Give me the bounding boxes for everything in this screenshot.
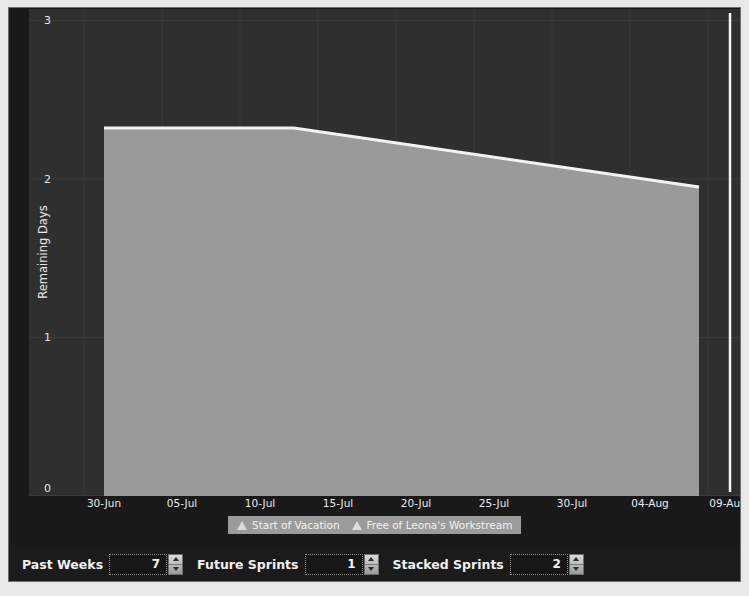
y-tick-3: 3 — [29, 15, 51, 26]
x-tick-7: 04-Aug — [615, 497, 685, 509]
x-tick-4: 20-Jul — [381, 497, 451, 509]
future-sprints-input[interactable]: 1 — [305, 554, 363, 575]
x-axis: 30-Jun 05-Jul 10-Jul 15-Jul 20-Jul 25-Ju… — [29, 497, 741, 513]
stacked-sprints-spin-buttons[interactable] — [569, 554, 584, 575]
x-tick-5: 25-Jul — [459, 497, 529, 509]
spinner-increment-button[interactable] — [365, 555, 378, 565]
y-axis-title: Remaining Days — [36, 192, 50, 312]
x-tick-3: 15-Jul — [303, 497, 373, 509]
spinner-increment-button[interactable] — [169, 555, 182, 565]
chart-legend[interactable]: Start of Vacation Free of Leona's Workst… — [228, 516, 521, 534]
x-tick-0: 30-Jun — [69, 497, 139, 509]
area-fill-remaining-days — [104, 128, 699, 496]
area-chart-svg — [29, 9, 741, 496]
past-weeks-label: Past Weeks — [22, 557, 103, 572]
chevron-up-icon — [368, 557, 374, 561]
spinner-increment-button[interactable] — [570, 555, 583, 565]
legend-entry-start-of-vacation[interactable]: Start of Vacation — [237, 519, 340, 531]
future-sprints-spin-buttons[interactable] — [364, 554, 379, 575]
control-group-past-weeks: Past Weeks 7 — [22, 554, 183, 575]
chevron-up-icon — [173, 557, 179, 561]
past-weeks-spin-buttons[interactable] — [168, 554, 183, 575]
x-tick-6: 30-Jul — [537, 497, 607, 509]
spinner-decrement-button[interactable] — [169, 565, 182, 574]
stacked-sprints-label: Stacked Sprints — [393, 557, 504, 572]
y-tick-2: 2 — [29, 174, 51, 185]
x-tick-2: 10-Jul — [225, 497, 295, 509]
spinner-decrement-button[interactable] — [570, 565, 583, 574]
legend-entry-free-of-leonas-workstream[interactable]: Free of Leona's Workstream — [352, 519, 513, 531]
y-tick-0: 0 — [29, 483, 51, 494]
past-weeks-stepper[interactable]: 7 — [109, 554, 183, 575]
future-sprints-label: Future Sprints — [197, 557, 298, 572]
triangle-up-icon — [237, 521, 247, 530]
chevron-up-icon — [573, 557, 579, 561]
triangle-up-icon — [352, 521, 362, 530]
past-weeks-input[interactable]: 7 — [109, 554, 167, 575]
y-tick-1: 1 — [29, 332, 51, 343]
control-bar: Past Weeks 7 Future Sprints 1 — [10, 546, 741, 582]
chevron-down-icon — [173, 567, 179, 571]
chevron-down-icon — [368, 567, 374, 571]
burndown-chart-window: 3 2 1 0 Remaining Days 30-Jun 05-Jul 10-… — [0, 0, 749, 596]
spinner-decrement-button[interactable] — [365, 565, 378, 574]
chevron-down-icon — [573, 567, 579, 571]
legend-label: Free of Leona's Workstream — [367, 519, 513, 531]
x-tick-1: 05-Jul — [147, 497, 217, 509]
legend-label: Start of Vacation — [252, 519, 340, 531]
control-group-future-sprints: Future Sprints 1 — [197, 554, 378, 575]
plot-area[interactable]: 3 2 1 0 Remaining Days — [29, 9, 741, 496]
stacked-sprints-input[interactable]: 2 — [510, 554, 568, 575]
chart-panel: 3 2 1 0 Remaining Days 30-Jun 05-Jul 10-… — [8, 7, 741, 582]
future-sprints-stepper[interactable]: 1 — [305, 554, 379, 575]
stacked-sprints-stepper[interactable]: 2 — [510, 554, 584, 575]
control-group-stacked-sprints: Stacked Sprints 2 — [393, 554, 584, 575]
x-tick-8: 09-Aug — [693, 497, 741, 509]
